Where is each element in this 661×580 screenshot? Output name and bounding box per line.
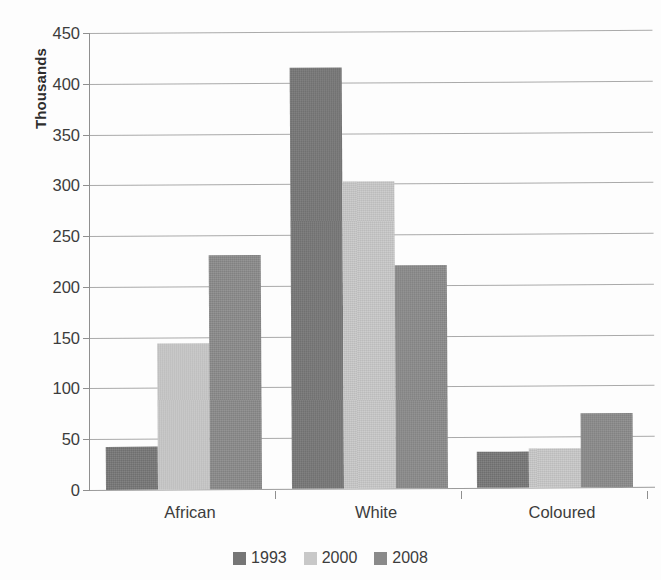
- category-label-white: White: [296, 503, 456, 522]
- y-axis-tick-labels: 450400350300250200150100500: [28, 0, 80, 580]
- bar-african-2000: [157, 343, 210, 490]
- category-tick: [461, 491, 462, 499]
- legend-item-2000[interactable]: 2000: [304, 550, 358, 566]
- y-tick-label: 250: [36, 228, 80, 245]
- y-tick-mark: [83, 490, 90, 491]
- y-tick-label: 50: [36, 431, 80, 448]
- y-tick-label: 200: [36, 279, 80, 296]
- y-tick-label: 300: [36, 177, 80, 194]
- category-label-african: African: [110, 503, 270, 522]
- plot-area: [89, 33, 655, 490]
- y-tick-mark: [83, 338, 90, 339]
- bar-white-2008: [395, 265, 448, 489]
- y-tick-label: 150: [36, 330, 80, 347]
- gridline: [87, 81, 653, 85]
- y-tick-mark: [83, 33, 90, 34]
- bar-coloured-1993: [477, 452, 529, 488]
- legend-label-2000: 2000: [322, 550, 358, 566]
- bar-coloured-2008: [581, 413, 633, 487]
- y-tick-label: 100: [36, 380, 80, 397]
- y-tick-label: 0: [36, 482, 80, 499]
- gridline: [87, 131, 653, 135]
- category-tick: [275, 491, 276, 499]
- y-tick-label: 450: [36, 25, 80, 42]
- gridlines: [86, 30, 652, 33]
- y-tick-mark: [83, 185, 90, 186]
- legend-item-2008[interactable]: 2008: [374, 550, 428, 566]
- y-tick-label: 400: [36, 76, 80, 93]
- legend-swatch-2000: [304, 552, 317, 565]
- legend-swatch-1993: [233, 552, 246, 565]
- gridline: [86, 30, 652, 34]
- bar-african-2008: [209, 255, 262, 489]
- y-tick-label: 350: [36, 127, 80, 144]
- legend-item-1993[interactable]: 1993: [233, 550, 287, 566]
- chart-legend: 199320002008: [0, 550, 661, 566]
- legend-label-2008: 2008: [392, 550, 428, 566]
- y-tick-mark: [83, 84, 90, 85]
- legend-swatch-2008: [374, 552, 387, 565]
- bar-african-1993: [106, 447, 158, 490]
- bar-white-1993: [290, 67, 344, 489]
- bar-coloured-2000: [529, 449, 581, 488]
- bar-chart: Thousands 450400350300250200150100500 Af…: [0, 0, 661, 580]
- category-label-coloured: Coloured: [482, 503, 642, 522]
- y-tick-mark: [83, 287, 90, 288]
- legend-label-1993: 1993: [251, 550, 287, 566]
- y-tick-mark: [83, 388, 90, 389]
- bar-white-2000: [342, 182, 396, 489]
- y-tick-mark: [83, 439, 90, 440]
- y-tick-mark: [83, 135, 90, 136]
- category-tick: [647, 491, 648, 499]
- y-tick-mark: [83, 236, 90, 237]
